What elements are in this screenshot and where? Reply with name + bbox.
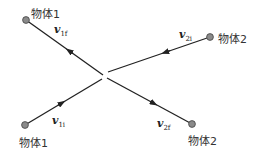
object2-initial-dot [207,34,214,41]
object1-final-dot [23,17,30,24]
object2-top-label: 物体2 [218,30,247,46]
object1-top-label: 物体1 [31,5,60,21]
velocity-v1i-label: v1i [52,114,65,129]
velocity-v1f-label: v1f [54,23,67,38]
object1-bottom-label: 物体1 [19,134,48,150]
path-object2-initial [108,37,210,72]
object2-final-dot [189,121,196,128]
path-object2-final [107,78,192,124]
velocity-v2f-label: v2f [157,117,170,132]
velocity-v2i-label: v2i [179,28,192,43]
object2-bottom-label: 物体2 [188,132,217,148]
object1-initial-dot [22,122,29,129]
